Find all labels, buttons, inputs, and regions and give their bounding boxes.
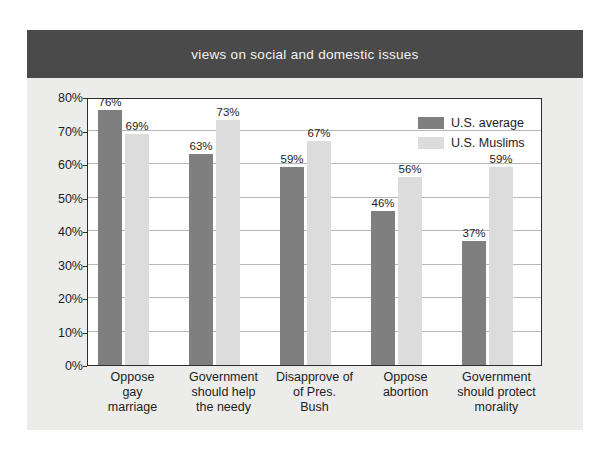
x-axis-category-line: of Pres. xyxy=(267,385,363,400)
legend-item-us-muslims: U.S. Muslims xyxy=(418,133,525,153)
y-axis-tick-mark xyxy=(83,366,87,367)
y-axis-tick-label: 0% xyxy=(31,359,83,373)
x-axis-category-line: Government xyxy=(176,370,272,385)
x-axis-category-line: Oppose xyxy=(358,370,454,385)
y-axis-tick-label: 60% xyxy=(31,158,83,172)
x-axis-category-line: should help xyxy=(176,385,272,400)
bar-value-label: 46% xyxy=(363,197,403,209)
bar[interactable] xyxy=(125,134,149,365)
bar[interactable] xyxy=(462,241,486,365)
bar[interactable] xyxy=(398,177,422,365)
y-axis-tick-label: 70% xyxy=(31,125,83,139)
legend-swatch-us-muslims xyxy=(418,137,444,149)
figure-container: views on social and domestic issues 0%10… xyxy=(27,30,583,430)
x-axis-category-line: Bush xyxy=(267,400,363,415)
x-axis-category-line: the needy xyxy=(176,400,272,415)
x-axis-category-label: Governmentshould protectmorality xyxy=(449,370,545,415)
bar[interactable] xyxy=(489,167,513,365)
chart-title-banner: views on social and domestic issues xyxy=(27,30,583,78)
bar-value-label: 73% xyxy=(208,106,248,118)
y-axis-tick-label: 20% xyxy=(31,292,83,306)
x-axis-category-line: Government xyxy=(449,370,545,385)
x-axis-category-line: morality xyxy=(449,400,545,415)
chart-title: views on social and domestic issues xyxy=(191,47,418,62)
bar-value-label: 69% xyxy=(117,120,157,132)
bar-group: 76%69% xyxy=(88,99,179,365)
plot-area: 76%69%63%73%59%67%46%56%37%59% U.S. aver… xyxy=(87,98,542,366)
legend-label-us-average: U.S. average xyxy=(451,116,524,130)
x-axis-category-label: Opposeabortion xyxy=(358,370,454,400)
bar[interactable] xyxy=(371,211,395,365)
chart-legend: U.S. average U.S. Muslims xyxy=(418,113,525,153)
bar-value-label: 67% xyxy=(299,127,339,139)
y-axis: 0%10%20%30%40%50%60%70%80% xyxy=(27,98,83,366)
y-axis-tick-label: 50% xyxy=(31,192,83,206)
bar-value-label: 59% xyxy=(481,153,521,165)
legend-item-us-average: U.S. average xyxy=(418,113,525,133)
bar-value-label: 59% xyxy=(272,153,312,165)
x-axis-category-label: Opposegaymarriage xyxy=(85,370,181,415)
bar-value-label: 56% xyxy=(390,163,430,175)
x-axis-category-line: should protect xyxy=(449,385,545,400)
y-axis-tick-label: 40% xyxy=(31,225,83,239)
bar[interactable] xyxy=(280,167,304,365)
bar[interactable] xyxy=(98,110,122,365)
bar-group: 59%67% xyxy=(270,99,361,365)
legend-label-us-muslims: U.S. Muslims xyxy=(451,136,525,150)
bar-value-label: 37% xyxy=(454,227,494,239)
x-axis-category-label: Disapprove ofof Pres.Bush xyxy=(267,370,363,415)
x-axis-category-labels: OpposegaymarriageGovernmentshould helpth… xyxy=(87,370,542,430)
x-axis-category-label: Governmentshould helpthe needy xyxy=(176,370,272,415)
bar-value-label: 76% xyxy=(90,96,130,108)
bar-group: 63%73% xyxy=(179,99,270,365)
y-axis-tick-label: 30% xyxy=(31,259,83,273)
x-axis-category-line: Disapprove of xyxy=(267,370,363,385)
bar[interactable] xyxy=(189,154,213,365)
x-axis-category-line: marriage xyxy=(85,400,181,415)
x-axis-category-line: abortion xyxy=(358,385,454,400)
bar[interactable] xyxy=(216,120,240,365)
x-axis-category-line: Oppose xyxy=(85,370,181,385)
y-axis-tick-label: 10% xyxy=(31,326,83,340)
x-axis-category-line: gay xyxy=(85,385,181,400)
bar-value-label: 63% xyxy=(181,140,221,152)
legend-swatch-us-average xyxy=(418,117,444,129)
bar[interactable] xyxy=(307,141,331,365)
y-axis-tick-label: 80% xyxy=(31,91,83,105)
